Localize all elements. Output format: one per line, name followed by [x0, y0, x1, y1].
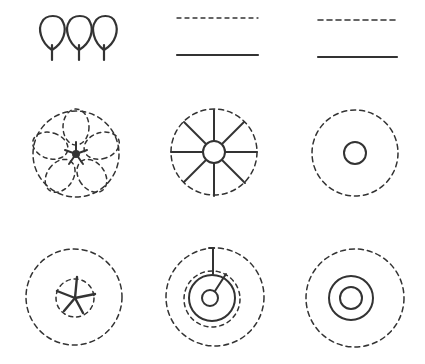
dashed-over-solid-line-symbol — [177, 18, 258, 55]
outer-dashed-circle — [166, 248, 264, 346]
three-leaf-trees-symbol — [40, 16, 117, 60]
symbol-diagram — [0, 0, 425, 364]
inner-solid-circle — [340, 287, 362, 309]
dashed-ring-small-circle-symbol — [312, 110, 398, 196]
spoked-wheel-symbol — [171, 109, 257, 196]
small-center-circle — [202, 290, 218, 306]
center-circle — [344, 142, 366, 164]
leaf-icon — [93, 16, 117, 60]
dashed-ring-star-symbol — [26, 249, 122, 345]
dashed-over-solid-line-alt-symbol — [318, 20, 397, 57]
middle-solid-circle — [329, 276, 373, 320]
star-icon — [57, 277, 95, 313]
solid-ring — [189, 275, 235, 321]
dashed-petal-flower-symbol — [29, 109, 123, 198]
leaf-icon — [40, 16, 65, 60]
leaf-icon — [67, 16, 92, 60]
ring-with-stem-symbol — [166, 248, 264, 346]
dashed-ring-double-circle-symbol — [306, 249, 404, 347]
outer-dashed-circle — [306, 249, 404, 347]
inner-dashed-circle — [184, 271, 240, 327]
outer-dashed-circle — [312, 110, 398, 196]
